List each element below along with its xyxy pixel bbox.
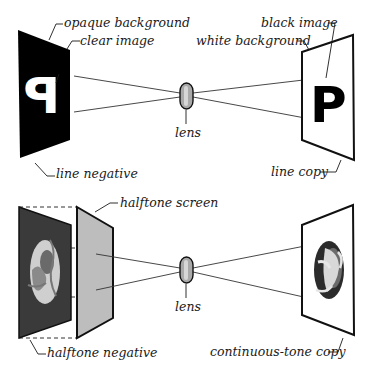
opaque-background-label: opaque background bbox=[64, 15, 190, 30]
lens-icon bbox=[180, 257, 193, 283]
line-reproduction-section: P lens P opaque background clear image l… bbox=[18, 15, 354, 181]
svg-text:P: P bbox=[23, 67, 60, 125]
halftone-screen-label: halftone screen bbox=[120, 195, 218, 210]
lens-label: lens bbox=[175, 125, 201, 140]
clear-image-label: clear image bbox=[80, 33, 155, 48]
lens-label-bottom: lens bbox=[175, 299, 201, 314]
line-copy-label: line copy bbox=[271, 164, 329, 179]
white-background-label: white background bbox=[196, 33, 311, 48]
continuous-tone-image bbox=[314, 241, 344, 299]
halftone-screen-panel bbox=[77, 207, 113, 338]
lens-icon bbox=[180, 83, 193, 109]
ray-negative-top bbox=[74, 76, 180, 93]
opaque-background-leader bbox=[49, 24, 63, 40]
halftone-negative-leader bbox=[30, 340, 46, 354]
line-negative-label: line negative bbox=[56, 166, 138, 181]
black-image-label: black image bbox=[261, 15, 338, 30]
ray-ctcopy-top bbox=[193, 245, 310, 268]
ray-copy-top bbox=[193, 79, 312, 93]
clear-image-glyph: P bbox=[23, 67, 60, 125]
halftone-screen-leader bbox=[95, 203, 118, 212]
black-image-glyph: P bbox=[310, 76, 347, 134]
continuous-tone-copy-label: continuous-tone copy bbox=[210, 344, 346, 359]
ray-ctcopy-bottom bbox=[193, 272, 308, 298]
ray-negative-bottom bbox=[74, 97, 180, 112]
clear-image-leader bbox=[67, 41, 80, 49]
line-negative-leader bbox=[35, 163, 55, 176]
camera-reproduction-diagram: P lens P opaque background clear image l… bbox=[0, 0, 372, 375]
halftone-reproduction-section: lens halftone screen halftone negative c… bbox=[19, 195, 354, 360]
halftone-negative-label: halftone negative bbox=[47, 345, 157, 360]
ray-copy-bottom bbox=[193, 97, 305, 118]
